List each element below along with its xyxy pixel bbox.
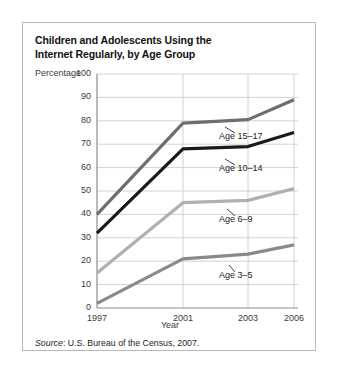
series-label-age-3-5: Age 3–5	[219, 270, 253, 280]
y-axis-tick-label: 40	[65, 208, 91, 218]
chart-plot-area: Percentage 0102030405060708090100 199720…	[23, 23, 317, 352]
chart-line-age-6-9	[97, 189, 294, 273]
y-axis-tick-label: 20	[65, 255, 91, 265]
series-label-age-10-14: Age 10–14	[219, 163, 263, 173]
chart-gridlines	[97, 74, 298, 308]
y-axis-tick-label: 100	[65, 68, 91, 78]
y-axis-tick-label: 30	[65, 232, 91, 242]
source-label: Source	[35, 338, 63, 348]
source-text: : U.S. Bureau of the Census, 2007.	[63, 338, 199, 348]
source-note: Source: U.S. Bureau of the Census, 2007.	[35, 338, 199, 348]
y-axis-tick-label: 0	[65, 302, 91, 312]
y-axis-tick-label: 70	[65, 138, 91, 148]
series-label-age-6-9: Age 6–9	[219, 214, 253, 224]
figure-card: Children and Adolescents Using the Inter…	[22, 22, 316, 351]
x-axis-title: Year	[23, 320, 317, 330]
y-axis-tick-label: 50	[65, 185, 91, 195]
y-axis-tick-label: 90	[65, 91, 91, 101]
y-axis-tick-label: 80	[65, 115, 91, 125]
chart-series-group	[97, 100, 294, 304]
series-label-age-15-17: Age 15–17	[219, 131, 263, 141]
chart-line-age-3-5	[97, 245, 294, 304]
y-axis-tick-label: 60	[65, 162, 91, 172]
y-axis-tick-label: 10	[65, 279, 91, 289]
